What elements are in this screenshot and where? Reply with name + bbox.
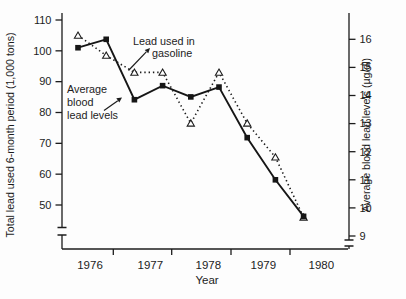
blood-annotation-line2: blood xyxy=(67,96,93,108)
filled-square-marker-icon xyxy=(103,37,109,43)
filled-square-marker-icon xyxy=(216,84,222,90)
left-axis-ticks: 1101009080706050 xyxy=(33,14,62,211)
year-label-1976: 1976 xyxy=(77,259,103,271)
filled-square-marker-icon xyxy=(301,214,307,220)
x-axis-title: Year xyxy=(195,274,218,286)
x-axis-ticks xyxy=(113,249,290,255)
left-axis xyxy=(58,13,67,249)
gasoline-annotation: Lead used in gasoline xyxy=(129,35,195,71)
filled-square-marker-icon xyxy=(132,97,138,103)
open-triangle-marker-icon xyxy=(159,69,166,75)
left-tick-label: 80 xyxy=(39,106,51,118)
right-tick-label: 16 xyxy=(360,33,372,45)
left-tick-label: 70 xyxy=(39,137,51,149)
open-triangle-marker-icon xyxy=(187,120,194,126)
right-axis-title: Average blood lead levels (µg/dl) xyxy=(360,58,372,212)
average-blood-lead-levels-line xyxy=(78,39,304,216)
filled-square-marker-icon xyxy=(188,94,194,100)
filled-square-marker-icon xyxy=(160,83,166,89)
year-label-1980: 1980 xyxy=(309,259,335,271)
year-label-1977: 1977 xyxy=(138,259,164,271)
left-tick-label: 60 xyxy=(39,168,51,180)
axes xyxy=(58,13,354,249)
year-label-1979: 1979 xyxy=(251,259,277,271)
lead-used-in-gasoline-series xyxy=(74,32,307,220)
open-triangle-marker-icon xyxy=(215,69,222,75)
chart-canvas: 1101009080706050 161514131211109 1976197… xyxy=(0,0,406,299)
left-tick-label: 90 xyxy=(39,75,51,87)
right-axis xyxy=(345,13,354,249)
blood-annotation-line3: lead levels xyxy=(67,109,119,121)
left-tick-label: 110 xyxy=(34,14,52,26)
left-tick-label: 50 xyxy=(39,199,51,211)
average-blood-lead-levels-series xyxy=(75,37,306,220)
left-tick-label: 100 xyxy=(33,45,51,57)
left-axis-title: Total lead used 6-month period (1,000 to… xyxy=(4,33,16,238)
open-triangle-marker-icon xyxy=(244,120,251,126)
blood-annotation-line1: Average xyxy=(67,83,107,95)
lead-gasoline-blood-chart: 1101009080706050 161514131211109 1976197… xyxy=(0,0,406,299)
gasoline-arrow-line xyxy=(129,52,147,71)
blood-annotation: Average blood lead levels xyxy=(67,83,122,121)
filled-square-marker-icon xyxy=(244,135,250,141)
filled-square-marker-icon xyxy=(273,177,279,183)
filled-square-marker-icon xyxy=(75,45,81,51)
series-container xyxy=(74,32,307,220)
gasoline-annotation-line1: Lead used in xyxy=(133,35,195,47)
open-triangle-marker-icon xyxy=(74,32,81,38)
gasoline-annotation-line2: gasoline xyxy=(152,47,192,59)
year-label-1978: 1978 xyxy=(196,259,222,271)
x-axis-labels: 19761977197819791980 xyxy=(77,259,334,271)
right-tick-label: 9 xyxy=(360,230,366,242)
